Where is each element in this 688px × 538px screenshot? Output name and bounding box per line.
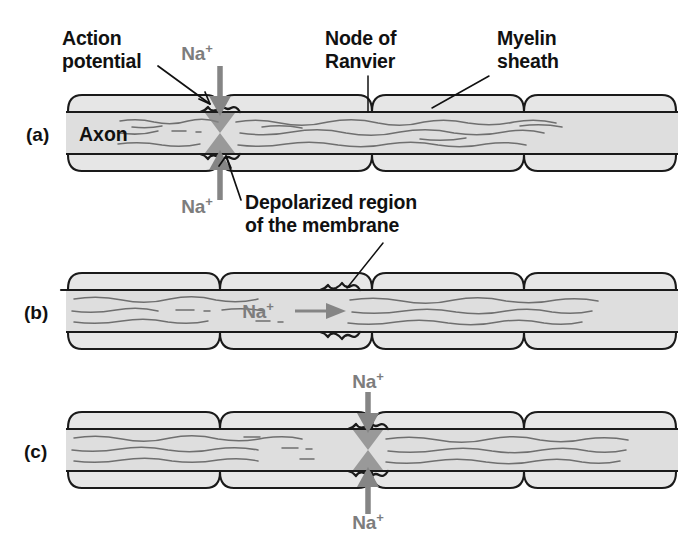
panel-c-sodium-label-top: Na+: [352, 369, 384, 393]
node-of-ranvier-label-line2: Ranvier: [325, 50, 396, 72]
panel-letter-b: (b): [24, 302, 48, 323]
panel-b-axon: [66, 290, 678, 332]
callout-action-potential: Action potential: [62, 27, 210, 104]
myelin-sheath-label-line2: sheath: [497, 50, 559, 72]
panel-a-sodium-label-top: Na+: [181, 41, 213, 65]
callout-depolarized-region: Depolarized region of the membrane: [219, 156, 417, 288]
panel-c: Na+ Na+ (c): [24, 369, 678, 534]
panel-letter-c: (c): [24, 441, 47, 462]
action-potential-label-line2: potential: [62, 50, 141, 72]
depolarized-label-line2: of the membrane: [245, 214, 399, 236]
node-of-ranvier-label-line1: Node of: [325, 27, 397, 49]
figure-canvas: Na+ Na+ (a) Axon: [0, 0, 688, 538]
axon-label: Axon: [79, 123, 128, 145]
saltatory-conduction-figure: Na+ Na+ (a) Axon: [0, 0, 688, 538]
panel-letter-a: (a): [26, 124, 49, 145]
panel-a-axon: [66, 112, 678, 154]
myelin-sheath-label-line1: Myelin: [497, 27, 556, 49]
depolarized-label-line1: Depolarized region: [245, 191, 417, 213]
panel-b: Na+ (b): [24, 273, 678, 349]
panel-a-sodium-label-bottom: Na+: [181, 194, 213, 218]
panel-c-sodium-label-bottom: Na+: [352, 510, 384, 534]
action-potential-label-line1: Action: [62, 27, 121, 49]
